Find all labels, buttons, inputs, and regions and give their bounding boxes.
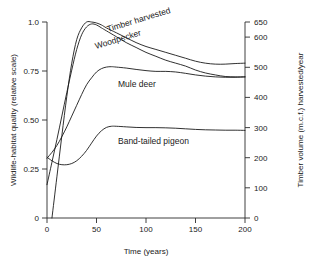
left-tick-label-0_75: 0.75 xyxy=(23,67,39,76)
y-axis-title: Wildlife-habitat quality (relative scale… xyxy=(9,54,18,186)
x-axis-title: Time (years) xyxy=(124,247,169,256)
right-tick-label-200: 200 xyxy=(254,154,268,163)
curve-label-mule-deer: Mule deer xyxy=(118,79,156,89)
bottom-tick-label-200: 200 xyxy=(238,225,252,234)
chart-figure: 1.0 0.75 0.50 0.25 0 650 600 500 400 300… xyxy=(0,0,318,269)
wildlife-habitat-timber-chart: 1.0 0.75 0.50 0.25 0 650 600 500 400 300… xyxy=(0,0,318,269)
bottom-tick-label-150: 150 xyxy=(189,225,203,234)
right-tick-label-600: 600 xyxy=(254,33,268,42)
left-tick-label-0_25: 0.25 xyxy=(23,165,39,174)
right-tick-label-500: 500 xyxy=(254,63,268,72)
bottom-tick-label-100: 100 xyxy=(139,225,153,234)
right-tick-label-100: 100 xyxy=(254,184,268,193)
curve-label-band-tailed-pigeon: Band-tailed pigeon xyxy=(118,136,189,146)
left-tick-label-0: 0 xyxy=(35,214,40,223)
left-tick-label-0_50: 0.50 xyxy=(23,116,39,125)
right-tick-label-0: 0 xyxy=(254,214,259,223)
right-tick-label-400: 400 xyxy=(254,93,268,102)
bottom-tick-label-50: 50 xyxy=(92,225,101,234)
left-tick-label-1_0: 1.0 xyxy=(28,18,40,27)
bottom-tick-label-0: 0 xyxy=(45,225,50,234)
right-tick-label-650: 650 xyxy=(254,18,268,27)
right-tick-label-300: 300 xyxy=(254,124,268,133)
y2-axis-title: Timber volume (m.c.f.) harvested/year xyxy=(296,52,305,187)
